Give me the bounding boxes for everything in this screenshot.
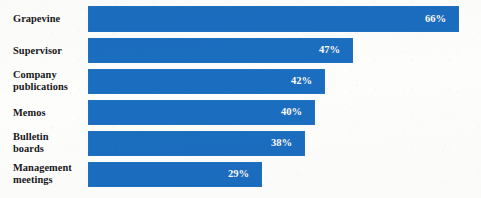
plot-area: Grapevine 66% Supervisor 47% Company pub… xyxy=(0,0,481,198)
category-label-line1: Supervisor xyxy=(13,45,62,56)
chart-row: Grapevine 66% xyxy=(0,6,481,32)
category-label: Company publications xyxy=(13,69,87,93)
category-label-line1: Grapevine xyxy=(13,13,60,24)
bar[interactable] xyxy=(88,6,459,32)
bar-value-label: 40% xyxy=(281,107,302,118)
bar[interactable] xyxy=(88,69,325,94)
chart-row: Memos 40% xyxy=(0,100,481,125)
bar-chart: Grapevine 66% Supervisor 47% Company pub… xyxy=(0,0,481,198)
category-label: Grapevine xyxy=(13,13,87,25)
bar-value-label: 38% xyxy=(271,138,292,149)
category-label-line1: Company xyxy=(13,69,57,80)
category-label-line2: publications xyxy=(13,81,87,93)
bar-value-label: 29% xyxy=(228,169,249,180)
category-label-line2: boards xyxy=(13,143,87,155)
category-label-line1: Bulletin xyxy=(13,131,49,142)
bar-value-label: 47% xyxy=(319,45,340,56)
bar-value-label: 42% xyxy=(291,76,312,87)
chart-row: Supervisor 47% xyxy=(0,38,481,63)
category-label-line1: Management xyxy=(13,162,72,173)
bar-value-label: 66% xyxy=(425,14,446,25)
category-label: Memos xyxy=(13,107,87,119)
category-label-line1: Memos xyxy=(13,107,46,118)
chart-row: Management meetings 29% xyxy=(0,162,481,187)
category-label-line2: meetings xyxy=(13,174,87,186)
category-label: Bulletin boards xyxy=(13,131,87,155)
category-label: Management meetings xyxy=(13,162,87,186)
chart-row: Company publications 42% xyxy=(0,69,481,94)
category-label: Supervisor xyxy=(13,45,87,57)
bar[interactable] xyxy=(88,38,353,63)
chart-row: Bulletin boards 38% xyxy=(0,131,481,156)
